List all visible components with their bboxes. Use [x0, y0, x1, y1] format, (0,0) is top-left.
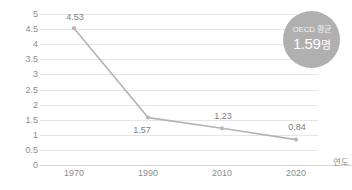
plot-area	[40, 14, 318, 165]
gridline	[40, 44, 318, 45]
y-tick-label: 2	[2, 100, 38, 109]
gridline	[40, 150, 318, 151]
x-tick-label: 2010	[212, 168, 232, 180]
x-tick-label: 1970	[64, 168, 84, 180]
y-tick-label: 4	[2, 40, 38, 49]
y-tick-label: 2.5	[2, 85, 38, 94]
data-label: 1.57	[133, 126, 151, 135]
badge-unit: 명	[321, 39, 331, 51]
data-label: 1.23	[214, 112, 232, 121]
oecd-average-badge: OECD 평균 1.59명	[283, 11, 340, 68]
data-label: 4.53	[66, 13, 84, 22]
gridline	[40, 59, 318, 60]
y-tick-label: 1	[2, 130, 38, 139]
y-axis-ticks: 5 4.5 4 3.5 3 2.5 2 1.5 1 0.5 0	[0, 14, 38, 165]
y-tick-label: 4.5	[2, 25, 38, 34]
data-label: 0.84	[288, 123, 306, 132]
badge-title: OECD 평균	[293, 26, 331, 34]
x-axis-line	[40, 165, 352, 166]
y-tick-label: 5	[2, 10, 38, 19]
x-axis-title: 연도	[333, 157, 349, 168]
x-tick-label: 1990	[138, 168, 158, 180]
y-tick-label: 3.5	[2, 55, 38, 64]
gridline	[40, 105, 318, 106]
badge-number: 1.59	[293, 35, 321, 52]
y-tick-label: 0	[2, 161, 38, 170]
gridline	[40, 29, 318, 30]
gridline	[40, 74, 318, 75]
gridline	[40, 120, 318, 121]
gridline	[40, 90, 318, 91]
x-axis-ticks: 1970 1990 2010 2020	[40, 168, 318, 186]
x-tick-label: 2020	[286, 168, 306, 180]
line-chart: 5 4.5 4 3.5 3 2.5 2 1.5 1 0.5 0 4.53 1.5…	[0, 0, 352, 190]
gridline	[40, 135, 318, 136]
y-tick-label: 0.5	[2, 145, 38, 154]
y-tick-label: 3	[2, 70, 38, 79]
y-tick-label: 1.5	[2, 115, 38, 124]
badge-value: 1.59명	[293, 36, 330, 53]
